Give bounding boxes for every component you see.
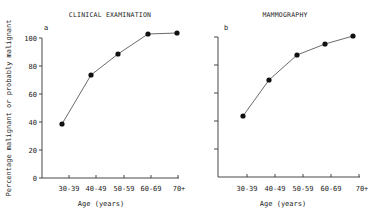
panel-b-title: MAMMOGRAPHY <box>262 11 307 19</box>
y-tick-label: 20 <box>29 147 37 155</box>
panel-b-mammography: MAMMOGRAPHY b 30-39 40-49 50-59 60-69 70… <box>214 11 368 208</box>
panel-a-letter: a <box>44 24 48 32</box>
panel-a-y-ticks: 100 80 60 40 20 0 <box>24 35 42 183</box>
figure: Percentage malignant or probably maligna… <box>0 0 376 219</box>
x-tick-label: 70+ <box>356 185 369 193</box>
panel-a-title: CLINICAL EXAMINATION <box>69 11 151 19</box>
y-tick-label: 60 <box>29 91 37 99</box>
y-tick-label: 40 <box>29 119 37 127</box>
panel-b-data-points <box>240 33 355 118</box>
x-tick-label: 50-59 <box>113 185 134 193</box>
x-tick-label: 40-49 <box>264 185 285 193</box>
panel-a-x-axis-label: Age (years) <box>78 200 124 208</box>
panel-a-data-points <box>59 30 179 126</box>
panel-b-series-line <box>243 36 353 116</box>
x-tick-label: 30-39 <box>58 185 79 193</box>
x-tick-label: 30-39 <box>236 185 257 193</box>
x-tick-label: 50-59 <box>292 185 313 193</box>
y-tick-label: 80 <box>29 63 37 71</box>
y-axis-label: Percentage malignant or probably maligna… <box>5 19 13 196</box>
x-tick-label: 70+ <box>173 185 186 193</box>
x-tick-label: 60-69 <box>320 185 341 193</box>
x-tick-label: 40-49 <box>85 185 106 193</box>
y-tick-label: 0 <box>33 175 37 183</box>
panel-a-clinical-examination: CLINICAL EXAMINATION a 100 80 60 40 20 0 <box>24 11 185 208</box>
x-tick-label: 60-69 <box>140 185 161 193</box>
panel-b-y-ticks <box>214 37 218 149</box>
y-tick-label: 100 <box>24 35 37 43</box>
panel-b-letter: b <box>224 24 228 32</box>
panel-a-series-line <box>62 33 177 124</box>
panel-b-x-axis-label: Age (years) <box>260 200 306 208</box>
